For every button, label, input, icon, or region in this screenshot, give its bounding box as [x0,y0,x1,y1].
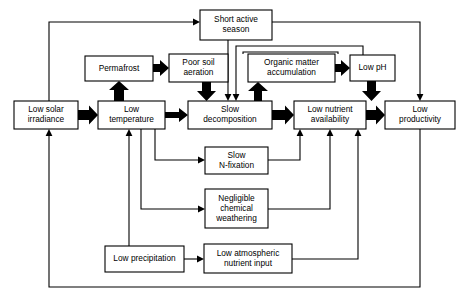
node-label-slow_n_fixation: N-fixation [219,160,254,170]
node-label-low_solar_irradiance: irradiance [28,114,65,124]
edge-low-temperature-to-slow-n-fixation [155,129,201,160]
node-label-low_temperature: temperature [109,114,154,124]
thick-arrow-slow-decomposition-to-organic-matter [248,82,268,101]
node-short_active_season[interactable]: Short activeseason [200,10,272,40]
node-label-negligible_chemical_weathering: weathering [215,213,257,223]
node-low_nutrient_availability[interactable]: Low nutrientavailability [294,101,366,129]
node-slow_n_fixation[interactable]: SlowN-fixation [205,147,268,174]
arrowhead-low-atmospheric-input-left [197,256,204,263]
thick-arrow-low-ph-to-low-nutrient [362,81,381,101]
edge-low-temperature-to-negligible-weathering [141,129,201,209]
node-low_solar_irradiance[interactable]: Low solarirradiance [14,101,78,129]
node-label-organic_matter_accumulation: accumulation [267,67,316,77]
arrowhead-low-solar-bottom [46,129,53,136]
node-label-slow_decomposition: decomposition [203,114,257,124]
node-label-short_active_season: season [223,24,250,34]
node-label-short_active_season: Short active [214,14,258,24]
arrowhead-short-active-season-left [193,19,200,26]
node-label-low_nutrient_availability: availability [311,114,350,124]
thick-arrow-organic-matter-to-low-ph [335,60,350,76]
node-label-organic_matter_accumulation: Organic matter [264,57,319,67]
node-label-low_atmospheric_nutrient_input: Low atmospheric [217,248,280,258]
node-negligible_chemical_weathering[interactable]: Negligiblechemicalweathering [205,189,268,228]
arrowhead-slow-decomposition-top-a [225,94,232,101]
thick-arrow-permafrost-to-poor-soil-aeration [153,60,169,76]
node-label-low_precipitation: Low precipitation [113,253,176,263]
node-label-negligible_chemical_weathering: Negligible [218,193,255,203]
arrowhead-low-nutrient-bottom-c [355,129,362,136]
node-low_atmospheric_nutrient_input[interactable]: Low atmosphericnutrient input [204,244,292,273]
arrowhead-low-productivity-top [417,94,424,101]
node-label-low_solar_irradiance: Low solar [28,104,64,114]
node-label-permafrost: Permafrost [99,63,140,73]
thick-arrow-poor-soil-aeration-to-slow-decomposition [197,82,216,101]
node-label-low_productivity: productivity [399,114,442,124]
edge-low-atmospheric-input-to-low-nutrient [292,133,358,259]
node-permafrost[interactable]: Permafrost [85,56,153,81]
node-label-low_temperature: Low [124,104,140,114]
node-label-low_ph: Low pH [358,62,386,72]
node-low_ph[interactable]: Low pH [350,55,395,81]
thick-arrow-slow-decomposition-to-low-nutrient [272,106,294,125]
node-label-slow_n_fixation: Slow [228,150,247,160]
arrowhead-low-nutrient-bottom-b [327,129,334,136]
flowchart-diagram: Short activeseasonPermafrostPoor soilaer… [0,0,474,305]
node-low_temperature[interactable]: Lowtemperature [98,101,165,129]
arrowhead-low-temperature-bottom [126,129,133,136]
thick-arrow-low-solar-to-low-temperature [78,106,98,125]
node-label-low_atmospheric_nutrient_input: nutrient input [224,258,273,268]
node-poor_soil_aeration[interactable]: Poor soilaeration [169,54,228,82]
node-label-slow_decomposition: Slow [221,104,240,114]
node-label-low_productivity: Low [412,104,428,114]
node-organic_matter_accumulation[interactable]: Organic matteraccumulation [248,54,335,82]
thick-arrow-low-temperature-to-slow-decomposition [165,108,188,122]
edge-slow-n-fixation-to-low-nutrient [268,133,300,160]
node-label-poor_soil_aeration: aeration [184,67,214,77]
arrowhead-slow-decomposition-top-b [233,94,240,101]
node-low_productivity[interactable]: Lowproductivity [385,101,455,129]
flowchart-canvas: Short activeseasonPermafrostPoor soilaer… [0,0,474,305]
node-label-negligible_chemical_weathering: chemical [220,203,253,213]
node-label-poor_soil_aeration: Poor soil [182,57,214,67]
thick-arrow-low-nutrient-to-low-productivity [366,106,385,125]
node-label-low_nutrient_availability: Low nutrient [307,104,353,114]
arrowhead-negligible-weathering-left [198,206,205,213]
arrowhead-low-nutrient-bottom-a [297,129,304,136]
thick-arrow-low-temperature-to-permafrost [109,81,129,101]
node-boxes: Short activeseasonPermafrostPoor soilaer… [14,10,455,273]
arrowhead-slow-n-fixation-left [198,157,205,164]
node-low_precipitation[interactable]: Low precipitation [105,246,184,272]
node-slow_decomposition[interactable]: Slowdecomposition [188,101,272,129]
edge-negligible-weathering-to-low-nutrient [268,133,330,209]
